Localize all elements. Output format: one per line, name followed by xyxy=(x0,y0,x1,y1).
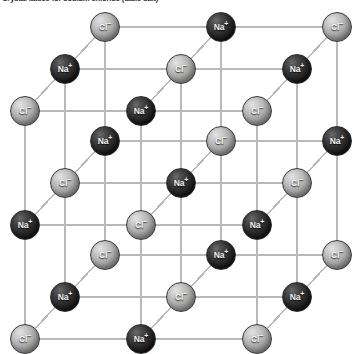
ion-label: Na+ xyxy=(214,251,228,260)
ion-label: Na+ xyxy=(134,335,148,344)
ion-label: Cl− xyxy=(99,251,111,260)
ion-label: Cl− xyxy=(175,293,187,302)
ion-label: Na+ xyxy=(58,65,72,74)
chloride-ion[interactable]: Cl− xyxy=(166,282,196,312)
sodium-ion[interactable]: Na+ xyxy=(206,12,236,42)
ion-charge: − xyxy=(107,20,111,27)
sodium-ion[interactable]: Na+ xyxy=(50,54,80,84)
ion-charge: − xyxy=(143,218,147,225)
ion-label: Na+ xyxy=(250,221,264,230)
sodium-ion[interactable]: Na+ xyxy=(126,324,156,354)
chloride-ion[interactable]: Cl− xyxy=(90,12,120,42)
sodium-ion[interactable]: Na+ xyxy=(282,54,312,84)
chloride-ion[interactable]: Cl− xyxy=(322,12,352,42)
ion-label: Na+ xyxy=(18,221,32,230)
sodium-ion[interactable]: Na+ xyxy=(10,210,40,240)
chloride-ion[interactable]: Cl− xyxy=(10,324,40,354)
chloride-ion[interactable]: Cl− xyxy=(10,96,40,126)
ion-charge: + xyxy=(184,176,188,183)
chloride-ion[interactable]: Cl− xyxy=(282,168,312,198)
chloride-ion[interactable]: Cl− xyxy=(242,96,272,126)
ion-charge: + xyxy=(28,218,32,225)
ion-charge: − xyxy=(183,290,187,297)
ion-label: Cl− xyxy=(291,179,303,188)
sodium-ion[interactable]: Na+ xyxy=(322,126,352,156)
ion-charge: − xyxy=(67,176,71,183)
ion-charge: − xyxy=(223,134,227,141)
chloride-ion[interactable]: Cl− xyxy=(322,240,352,270)
ion-label: Na+ xyxy=(290,65,304,74)
chloride-ion[interactable]: Cl− xyxy=(242,324,272,354)
ion-label: Cl− xyxy=(331,251,343,260)
ion-charge: + xyxy=(300,290,304,297)
ion-charge: + xyxy=(300,62,304,69)
ion-charge: − xyxy=(339,248,343,255)
ion-charge: + xyxy=(68,62,72,69)
ion-charge: + xyxy=(68,290,72,297)
ion-label: Cl− xyxy=(251,335,263,344)
sodium-ion[interactable]: Na+ xyxy=(90,126,120,156)
ion-charge: + xyxy=(144,332,148,339)
ion-charge: − xyxy=(107,248,111,255)
sodium-ion[interactable]: Na+ xyxy=(166,168,196,198)
ion-charge: + xyxy=(224,20,228,27)
ion-label: Na+ xyxy=(98,137,112,146)
sodium-ion[interactable]: Na+ xyxy=(282,282,312,312)
chloride-ion[interactable]: Cl− xyxy=(126,210,156,240)
ion-charge: − xyxy=(183,62,187,69)
chloride-ion[interactable]: Cl− xyxy=(50,168,80,198)
ion-charge: − xyxy=(259,332,263,339)
ion-label: Cl− xyxy=(135,221,147,230)
ion-charge: + xyxy=(224,248,228,255)
ion-charge: + xyxy=(340,134,344,141)
chloride-ion[interactable]: Cl− xyxy=(90,240,120,270)
ion-label: Cl− xyxy=(215,137,227,146)
ion-label: Na+ xyxy=(134,107,148,116)
ion-label: Cl− xyxy=(19,107,31,116)
sodium-ion[interactable]: Na+ xyxy=(126,96,156,126)
ion-label: Cl− xyxy=(251,107,263,116)
ion-label: Na+ xyxy=(290,293,304,302)
ion-charge: − xyxy=(27,332,31,339)
ion-charge: + xyxy=(108,134,112,141)
ion-label: Cl− xyxy=(19,335,31,344)
chloride-ion[interactable]: Cl− xyxy=(166,54,196,84)
ion-label: Cl− xyxy=(59,179,71,188)
ion-charge: + xyxy=(260,218,264,225)
ion-label: Na+ xyxy=(174,179,188,188)
ion-label: Na+ xyxy=(214,23,228,32)
ion-label: Cl− xyxy=(331,23,343,32)
ion-label: Na+ xyxy=(58,293,72,302)
ion-charge: − xyxy=(299,176,303,183)
ion-label: Cl− xyxy=(99,23,111,32)
sodium-ion[interactable]: Na+ xyxy=(50,282,80,312)
ion-label: Cl− xyxy=(175,65,187,74)
ion-charge: + xyxy=(144,104,148,111)
ion-charge: − xyxy=(339,20,343,27)
ion-label: Na+ xyxy=(330,137,344,146)
sodium-ion[interactable]: Na+ xyxy=(242,210,272,240)
ion-charge: − xyxy=(259,104,263,111)
ion-charge: − xyxy=(27,104,31,111)
chloride-ion[interactable]: Cl− xyxy=(206,126,236,156)
sodium-ion[interactable]: Na+ xyxy=(206,240,236,270)
